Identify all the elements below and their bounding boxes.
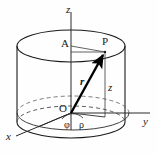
angle-phi-label: φ	[64, 120, 70, 130]
segment-a-to-p-upper	[71, 46, 105, 52]
height-z-label: z	[108, 82, 112, 93]
radius-rho-label: ρ	[79, 120, 84, 130]
point-p-marker	[104, 51, 106, 53]
point-a-label: A	[61, 38, 69, 49]
point-p-label: P	[102, 36, 108, 47]
origin-label: O	[59, 103, 67, 114]
x-axis-label: x	[6, 131, 11, 142]
cylindrical-coordinates-figure: z y x O P A r z φ ρ	[0, 0, 158, 154]
radius-vector-label: r	[80, 76, 84, 87]
rho-radial-line	[71, 113, 105, 117]
base-plane-front-arc	[17, 113, 129, 130]
diagram-canvas	[0, 0, 158, 154]
position-vector-r	[71, 55, 103, 113]
y-axis-label: y	[143, 116, 148, 127]
z-axis-label: z	[66, 4, 70, 15]
